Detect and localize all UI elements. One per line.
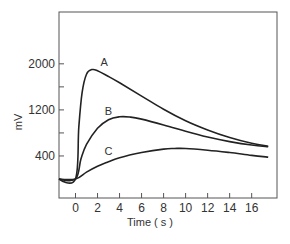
x-tick-label: 12 bbox=[201, 201, 215, 215]
y-tick-label: 400 bbox=[35, 149, 55, 163]
curve-label-a: A bbox=[100, 56, 108, 68]
y-tick-label: 1200 bbox=[28, 103, 55, 117]
line-chart: 40012002000 0246810121416 ABC Time ( s )… bbox=[0, 0, 290, 244]
x-tick-label: 8 bbox=[160, 201, 167, 215]
x-axis-ticks: 0246810121416 bbox=[72, 193, 258, 215]
x-tick-label: 4 bbox=[116, 201, 123, 215]
x-tick-label: 16 bbox=[245, 201, 259, 215]
curve-label-c: C bbox=[105, 145, 113, 157]
x-tick-label: 2 bbox=[94, 201, 101, 215]
x-tick-label: 0 bbox=[72, 201, 79, 215]
y-tick-label: 2000 bbox=[28, 57, 55, 71]
y-axis-title: mV bbox=[12, 113, 24, 130]
x-tick-label: 6 bbox=[138, 201, 145, 215]
x-tick-label: 10 bbox=[179, 201, 193, 215]
curve-c bbox=[59, 148, 268, 179]
x-axis-title: Time ( s ) bbox=[127, 216, 173, 228]
curve-label-b: B bbox=[105, 105, 112, 117]
curve-a bbox=[59, 69, 268, 183]
curve-labels: ABC bbox=[100, 56, 112, 157]
x-tick-label: 14 bbox=[223, 201, 237, 215]
curves bbox=[59, 69, 268, 183]
